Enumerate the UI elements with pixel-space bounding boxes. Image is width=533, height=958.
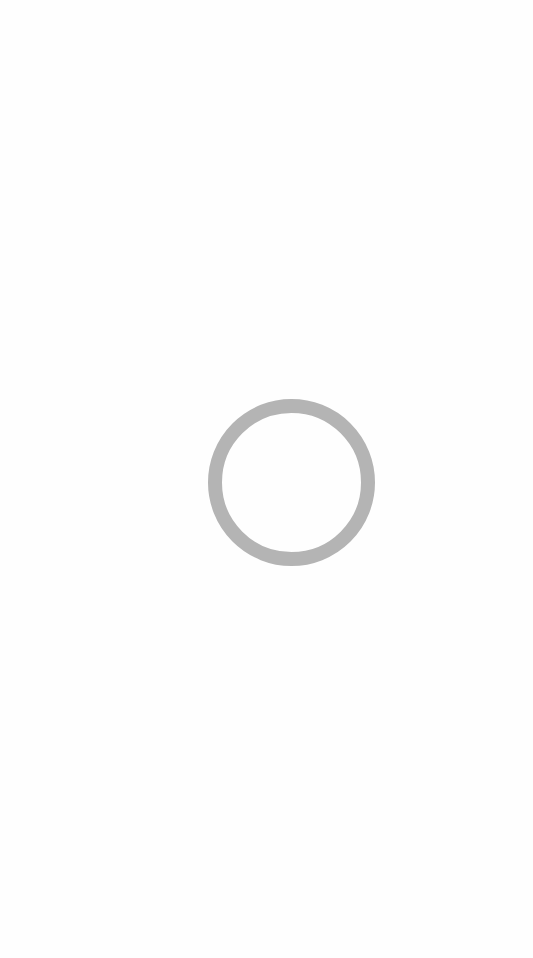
loading-screen — [0, 0, 533, 958]
loading-label — [0, 0, 1, 1]
loading-ring-icon — [208, 399, 375, 566]
